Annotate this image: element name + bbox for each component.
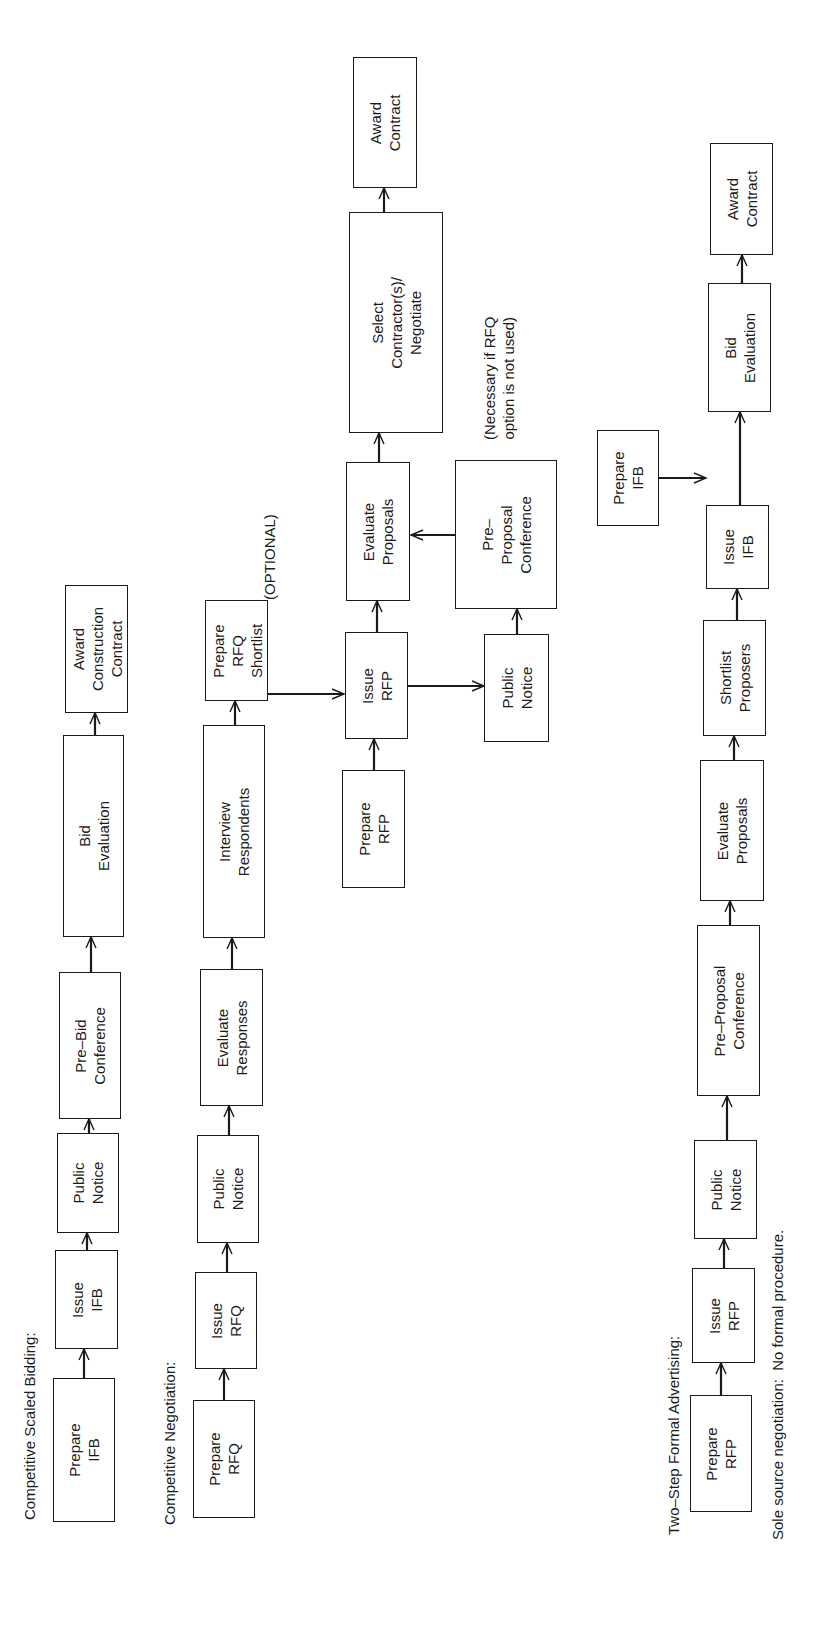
step-issue-rfp: Issue RFP (345, 632, 408, 739)
step-award-contract: Award Contract (710, 143, 773, 255)
procurement-flowcharts: Competitive Scaled Bidding: Competitive … (0, 0, 831, 1636)
step-pre-proposal-conference: Pre– Proposal Conference (455, 460, 557, 609)
step-prepare-ifb: Prepare IFB (597, 430, 659, 526)
step-public-notice: Public Notice (197, 1135, 259, 1243)
step-prepare-rfp: Prepare RFP (342, 770, 405, 888)
step-bid-evaluation: Bid Evaluation (708, 283, 771, 412)
section-label-sole-source-negotiation: Sole source negotiation: No formal proce… (768, 1230, 787, 1540)
step-public-notice: Public Notice (694, 1140, 757, 1239)
step-label: Public Notice (707, 1168, 745, 1211)
step-label: Public Notice (69, 1162, 107, 1205)
optional-note: (OPTIONAL) (260, 514, 279, 600)
step-label: Select Contractor(s)/ Negotiate (368, 277, 425, 369)
step-prepare-rfp: Prepare RFP (690, 1395, 752, 1512)
step-public-notice: Public Notice (57, 1133, 119, 1233)
section-label-two-step-formal-advertising: Two–Step Formal Advertising: (664, 1336, 683, 1535)
step-prepare-rfq-shortlist: Prepare RFQ Shortlist (205, 600, 268, 701)
step-label: Prepare IFB (65, 1423, 103, 1476)
step-label: Evaluate Proposals (359, 498, 397, 565)
step-select-contractors-negotiate: Select Contractor(s)/ Negotiate (349, 212, 443, 433)
step-label: Issue RFQ (207, 1303, 245, 1339)
step-issue-ifb: Issue IFB (706, 505, 769, 589)
step-label: Interview Respondents (215, 787, 253, 875)
step-issue-rfq: Issue RFQ (195, 1272, 257, 1369)
step-label: Prepare RFQ (205, 1432, 243, 1485)
step-pre-proposal-conference: Pre–Proposal Conference (697, 925, 760, 1096)
step-label: Issue IFB (68, 1282, 106, 1318)
step-label: Pre–Proposal Conference (710, 965, 748, 1056)
step-label: Public Notice (498, 667, 536, 710)
step-label: Issue RFP (705, 1298, 743, 1334)
step-label: Evaluate Responses (213, 1000, 251, 1075)
step-award-construction-contract: Award Construction Contract (65, 585, 128, 713)
step-label: Shortlist Proposers (716, 644, 754, 712)
step-public-notice-rfp: Public Notice (484, 634, 549, 742)
step-bid-evaluation: Bid Evaluation (63, 735, 124, 937)
step-label: Bid Evaluation (721, 312, 759, 382)
step-interview-respondents: Interview Respondents (203, 725, 265, 938)
step-evaluate-proposals: Evaluate Proposals (700, 760, 764, 901)
step-issue-rfp: Issue RFP (692, 1268, 755, 1363)
step-label: Pre–Bid Conference (71, 1007, 109, 1085)
step-label: Prepare IFB (609, 451, 647, 504)
step-label: Evaluate Proposals (713, 797, 751, 864)
necessary-note: (Necessary if RFQ option is not used) (480, 317, 518, 440)
step-pre-bid-conference: Pre–Bid Conference (59, 972, 121, 1119)
step-label: Award Construction Contract (68, 607, 125, 691)
step-label: Issue RFP (358, 668, 396, 704)
section-label-competitive-scaled-bidding: Competitive Scaled Bidding: (20, 1332, 39, 1520)
step-prepare-ifb: Prepare IFB (53, 1378, 115, 1522)
step-label: Award Contract (723, 171, 761, 228)
step-evaluate-responses: Evaluate Responses (200, 969, 263, 1106)
step-label: Prepare RFQ Shortlist (208, 623, 265, 677)
step-award-contract: Award Contract (353, 57, 417, 188)
step-label: Issue IFB (719, 529, 757, 565)
step-label: Prepare RFP (355, 802, 393, 855)
step-evaluate-proposals: Evaluate Proposals (346, 462, 410, 601)
step-label: Bid Evaluation (75, 801, 113, 871)
step-shortlist-proposers: Shortlist Proposers (703, 620, 766, 736)
step-label: Pre– Proposal Conference (478, 496, 535, 574)
step-issue-ifb: Issue IFB (55, 1250, 118, 1349)
step-label: Award Contract (366, 94, 404, 151)
step-label: Public Notice (209, 1168, 247, 1211)
step-label: Prepare RFP (702, 1427, 740, 1480)
section-label-competitive-negotiation: Competitive Negotiation: (160, 1362, 179, 1525)
step-prepare-rfq: Prepare RFQ (193, 1400, 255, 1518)
